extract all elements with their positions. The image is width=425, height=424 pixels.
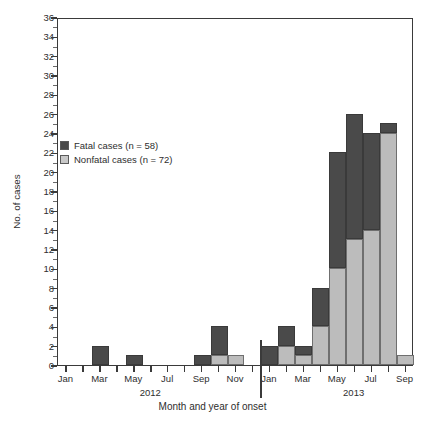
- x-tick-mark: [354, 366, 355, 372]
- bar: [380, 123, 397, 365]
- legend-swatch-nonfatal-icon: [60, 155, 69, 164]
- legend-item-fatal: Fatal cases (n = 58): [60, 139, 172, 152]
- x-axis-title: Month and year of onset: [0, 401, 425, 412]
- bar: [211, 326, 228, 365]
- x-tick-mark: [82, 366, 83, 372]
- chart-figure: 024681012141618202224262830323436 No. of…: [0, 0, 425, 424]
- bar: [329, 152, 346, 365]
- plot-area: [57, 18, 413, 366]
- bar-segment-nonfatal: [363, 230, 380, 365]
- bar: [346, 114, 363, 365]
- bar: [126, 355, 143, 365]
- bar-segment-fatal: [211, 326, 228, 355]
- bar: [397, 355, 414, 365]
- x-tick-mark: [405, 366, 406, 372]
- x-tick-mark: [133, 366, 134, 372]
- x-tick-mark: [337, 366, 338, 372]
- x-tick-mark: [116, 366, 117, 372]
- bar: [278, 326, 295, 365]
- bar-segment-fatal: [92, 346, 109, 365]
- bar-segment-nonfatal: [329, 268, 346, 365]
- bar: [312, 288, 329, 365]
- x-tick-mark: [167, 366, 168, 372]
- bar-segment-fatal: [380, 123, 397, 133]
- x-tick-mark: [150, 366, 151, 372]
- bar-segment-nonfatal: [312, 326, 329, 365]
- bar: [295, 346, 312, 365]
- bar-segment-fatal: [194, 355, 211, 365]
- bar-segment-nonfatal: [346, 239, 363, 365]
- x-tick-mark: [99, 366, 100, 372]
- bar-segment-nonfatal: [380, 133, 397, 365]
- legend-item-nonfatal: Nonfatal cases (n = 72): [60, 153, 172, 166]
- bar-segment-nonfatal: [228, 355, 245, 365]
- x-tick-mark: [201, 366, 202, 372]
- x-axis-year-label: 2013: [324, 387, 384, 398]
- year-divider: [260, 340, 261, 398]
- bar-segment-fatal: [363, 133, 380, 230]
- bar-segment-fatal: [346, 114, 363, 240]
- bar: [92, 346, 109, 365]
- bar-segment-fatal: [278, 326, 295, 345]
- bar-segment-nonfatal: [278, 346, 295, 365]
- x-tick-mark: [218, 366, 219, 372]
- bar-segment-nonfatal: [397, 355, 414, 365]
- x-tick-mark: [184, 366, 185, 372]
- x-tick-mark: [388, 366, 389, 372]
- bar-segment-fatal: [295, 346, 312, 356]
- bar-segment-fatal: [329, 152, 346, 268]
- y-axis-tick-labels: 024681012141618202224262830323436: [28, 0, 54, 424]
- x-tick-mark: [320, 366, 321, 372]
- x-axis-year-label: 2012: [120, 387, 180, 398]
- bar: [194, 355, 211, 365]
- bar-segment-fatal: [126, 355, 143, 365]
- bar-segment-fatal: [312, 288, 329, 327]
- x-tick-mark: [65, 366, 66, 372]
- bar-segment-nonfatal: [295, 355, 312, 365]
- bar-segment-nonfatal: [211, 355, 228, 365]
- bar: [261, 346, 278, 365]
- x-tick-mark: [286, 366, 287, 372]
- x-tick-mark: [252, 366, 253, 372]
- bar: [228, 355, 245, 365]
- legend-label-nonfatal: Nonfatal cases (n = 72): [74, 154, 172, 165]
- legend-label-fatal: Fatal cases (n = 58): [74, 140, 158, 151]
- y-axis-title: No. of cases: [11, 142, 22, 262]
- x-tick-mark: [371, 366, 372, 372]
- x-tick-mark: [303, 366, 304, 372]
- bar-segment-fatal: [261, 346, 278, 365]
- x-tick-mark: [269, 366, 270, 372]
- x-tick-mark: [235, 366, 236, 372]
- bar: [363, 133, 380, 365]
- legend-swatch-fatal-icon: [60, 141, 69, 150]
- chart-legend: Fatal cases (n = 58) Nonfatal cases (n =…: [60, 139, 172, 167]
- x-tick-label: Sep: [385, 373, 425, 384]
